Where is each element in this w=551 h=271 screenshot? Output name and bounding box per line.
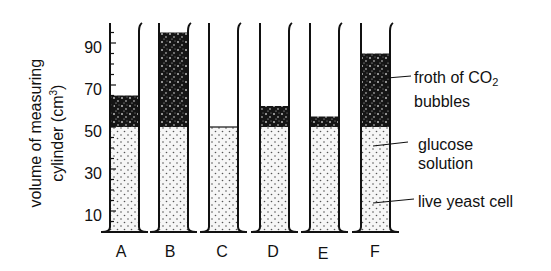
- annotation-yeast: live yeast cell: [418, 192, 513, 211]
- cylinder-label-b: B: [155, 243, 185, 261]
- cylinder-label-f: F: [360, 243, 390, 261]
- glucose-yeast-solution: [209, 127, 238, 232]
- annotation-glucose-line2: solution: [418, 154, 473, 173]
- annotation-froth-line2: bubbles: [414, 92, 498, 111]
- annotation-glucose-line1: glucose: [418, 135, 473, 154]
- glucose-yeast-solution: [110, 127, 139, 232]
- y-axis-label-line1: volume of measuring: [27, 58, 45, 208]
- co2-froth: [110, 96, 139, 128]
- glucose-yeast-solution: [260, 127, 289, 232]
- cylinder-label-a: A: [106, 243, 136, 261]
- annotation-froth-line1: froth of CO2: [414, 68, 498, 92]
- y-tick-70: 70: [72, 81, 102, 99]
- cylinder-label-e: E: [308, 245, 338, 263]
- y-tick-90: 90: [72, 39, 102, 57]
- y-axis-label: volume of measuring cylinder (cm3): [27, 58, 67, 208]
- y-tick-30: 30: [72, 165, 102, 183]
- yeast-fermentation-diagram: volume of measuring cylinder (cm3) 90 70…: [0, 0, 551, 271]
- annotation-glucose: glucose solution: [418, 135, 473, 173]
- glucose-yeast-solution: [310, 127, 339, 232]
- y-tick-10: 10: [72, 207, 102, 225]
- glucose-yeast-solution: [159, 127, 188, 232]
- co2-froth: [260, 106, 289, 127]
- co2-froth: [361, 54, 390, 128]
- y-axis-label-line2: cylinder (cm3): [45, 58, 67, 208]
- co2-froth: [159, 33, 188, 128]
- cylinder-label-d: D: [258, 243, 288, 261]
- annotation-froth: froth of CO2 bubbles: [414, 68, 498, 111]
- y-tick-50: 50: [72, 123, 102, 141]
- co2-froth: [310, 117, 339, 128]
- glucose-yeast-solution: [361, 127, 390, 232]
- cylinder-label-c: C: [207, 243, 237, 261]
